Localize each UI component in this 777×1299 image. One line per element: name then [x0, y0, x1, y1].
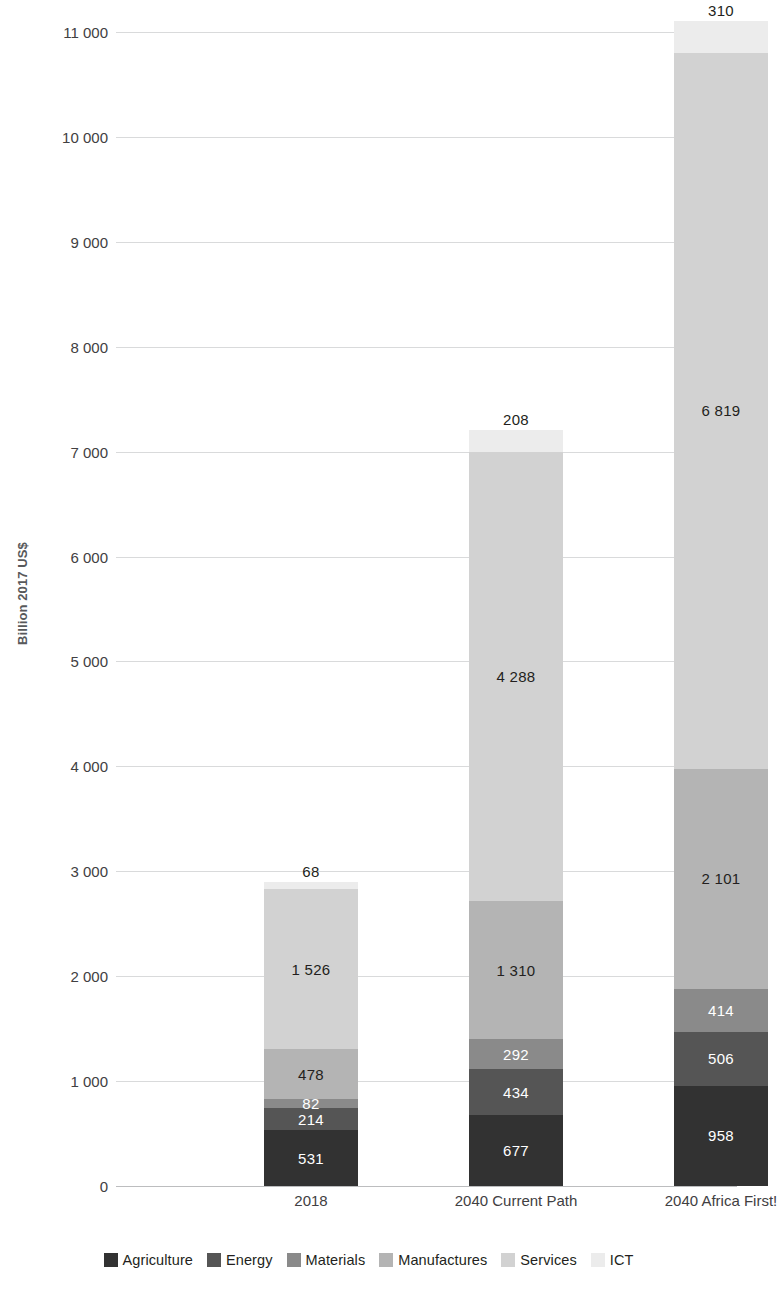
- data-label: 1 310: [496, 963, 535, 978]
- bar-segment-manufactures[interactable]: 2 101: [674, 769, 768, 989]
- data-label: 292: [503, 1047, 529, 1062]
- gridline: [116, 347, 737, 348]
- data-label: 310: [708, 3, 734, 18]
- bar-segment-agriculture[interactable]: 531: [264, 1130, 358, 1186]
- data-label: 478: [298, 1067, 324, 1082]
- legend-label: Manufactures: [398, 1252, 487, 1268]
- gridline: [116, 557, 737, 558]
- y-axis-tick-labels: 01 0002 0003 0004 0005 0006 0007 0008 00…: [0, 32, 108, 1186]
- legend-item-energy[interactable]: Energy: [207, 1252, 273, 1268]
- bar-segment-manufactures[interactable]: 478: [264, 1049, 358, 1099]
- legend-label: Agriculture: [123, 1252, 193, 1268]
- chart-legend: AgricultureEnergyMaterialsManufacturesSe…: [0, 1252, 737, 1268]
- legend-swatch-icon: [207, 1253, 221, 1267]
- y-tick-label: 6 000: [0, 548, 108, 565]
- axis-baseline: [116, 1186, 737, 1187]
- data-label: 958: [708, 1128, 734, 1143]
- y-tick-label: 4 000: [0, 758, 108, 775]
- y-tick-label: 10 000: [0, 128, 108, 145]
- legend-swatch-icon: [501, 1253, 515, 1267]
- y-tick-label: 8 000: [0, 338, 108, 355]
- y-tick-label: 0: [0, 1178, 108, 1195]
- gridline: [116, 1081, 737, 1082]
- y-tick-label: 9 000: [0, 233, 108, 250]
- data-label: 677: [503, 1143, 529, 1158]
- bar-segment-energy[interactable]: 506: [674, 1032, 768, 1085]
- legend-item-ict[interactable]: ICT: [591, 1252, 634, 1268]
- data-label: 1 526: [291, 962, 330, 977]
- bar-segment-energy[interactable]: 214: [264, 1108, 358, 1130]
- bar-segment-materials[interactable]: 292: [469, 1039, 563, 1070]
- bar-segment-agriculture[interactable]: 677: [469, 1115, 563, 1186]
- legend-swatch-icon: [104, 1253, 118, 1267]
- legend-label: Materials: [306, 1252, 366, 1268]
- x-tick-label: 2040 Africa First!: [665, 1192, 777, 1209]
- gridline: [116, 976, 737, 977]
- data-label: 506: [708, 1051, 734, 1066]
- data-label: 531: [298, 1151, 324, 1166]
- legend-swatch-icon: [591, 1253, 605, 1267]
- gridline: [116, 661, 737, 662]
- plot-area: 531214824781 526686774342921 3104 288208…: [116, 32, 737, 1186]
- bar-segment-services[interactable]: 4 288: [469, 452, 563, 902]
- legend-item-services[interactable]: Services: [501, 1252, 576, 1268]
- gridline: [116, 871, 737, 872]
- data-label: 2 101: [701, 871, 740, 886]
- gridline: [116, 242, 737, 243]
- bar-segment-materials[interactable]: 82: [264, 1099, 358, 1108]
- x-tick-label: 2018: [294, 1192, 327, 1209]
- bar-segment-services[interactable]: 6 819: [674, 53, 768, 768]
- y-tick-label: 7 000: [0, 443, 108, 460]
- bar-segment-manufactures[interactable]: 1 310: [469, 901, 563, 1038]
- legend-item-manufactures[interactable]: Manufactures: [379, 1252, 487, 1268]
- bar-segment-agriculture[interactable]: 958: [674, 1086, 768, 1187]
- gridline: [116, 766, 737, 767]
- data-label: 214: [298, 1112, 324, 1127]
- y-tick-label: 3 000: [0, 863, 108, 880]
- y-tick-label: 5 000: [0, 653, 108, 670]
- bar-3[interactable]: 9585064142 1016 819310: [674, 21, 768, 1186]
- x-axis-tick-labels: 20182040 Current Path2040 Africa First!: [116, 1192, 737, 1222]
- bar-2[interactable]: 6774342921 3104 288208: [469, 430, 563, 1186]
- legend-label: Services: [520, 1252, 576, 1268]
- data-label: 4 288: [496, 669, 535, 684]
- gridline: [116, 452, 737, 453]
- bar-segment-ict[interactable]: 68: [264, 882, 358, 889]
- data-label: 434: [503, 1085, 529, 1100]
- y-tick-label: 1 000: [0, 1073, 108, 1090]
- bar-segment-ict[interactable]: 310: [674, 21, 768, 54]
- bar-segment-materials[interactable]: 414: [674, 989, 768, 1032]
- bar-1[interactable]: 531214824781 52668: [264, 882, 358, 1186]
- bar-segment-energy[interactable]: 434: [469, 1069, 563, 1115]
- x-tick-label: 2040 Current Path: [455, 1192, 578, 1209]
- legend-label: ICT: [610, 1252, 634, 1268]
- legend-swatch-icon: [287, 1253, 301, 1267]
- gridline: [116, 137, 737, 138]
- legend-label: Energy: [226, 1252, 273, 1268]
- legend-item-materials[interactable]: Materials: [287, 1252, 366, 1268]
- bar-segment-ict[interactable]: 208: [469, 430, 563, 452]
- y-tick-label: 11 000: [0, 24, 108, 41]
- data-label: 208: [503, 412, 529, 427]
- data-label: 6 819: [701, 403, 740, 418]
- gridline: [116, 32, 737, 33]
- legend-swatch-icon: [379, 1253, 393, 1267]
- data-label: 414: [708, 1003, 734, 1018]
- y-tick-label: 2 000: [0, 968, 108, 985]
- bar-segment-services[interactable]: 1 526: [264, 889, 358, 1049]
- legend-item-agriculture[interactable]: Agriculture: [104, 1252, 193, 1268]
